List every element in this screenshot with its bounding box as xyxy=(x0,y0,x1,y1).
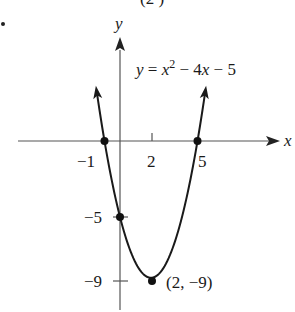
x-tick-label-5: 5 xyxy=(198,152,207,171)
vertex-label: (2, −9) xyxy=(166,273,212,292)
x-tick-label-neg1: −1 xyxy=(77,152,95,171)
parabola-graph: (2 ) x y −1 2 5 −5 −9 (2, −9) y = x2 − 4… xyxy=(0,0,295,312)
equation-label: y = x2 − 4x − 5 xyxy=(134,57,236,79)
bullet-dot xyxy=(1,22,5,26)
point-x-intercept-5 xyxy=(194,137,202,145)
y-tick-label-neg5: −5 xyxy=(84,208,102,227)
y-axis-arrow-icon xyxy=(115,37,125,51)
parabola-curve xyxy=(97,92,206,278)
point-y-intercept xyxy=(116,213,124,221)
x-tick-label-2: 2 xyxy=(147,152,156,171)
point-x-intercept-neg1 xyxy=(101,137,109,145)
y-tick-label-neg9: −9 xyxy=(84,272,102,291)
clipped-header-text: (2 ) xyxy=(140,0,164,8)
point-vertex xyxy=(148,277,156,285)
y-axis-label: y xyxy=(113,14,123,33)
x-axis-label: x xyxy=(283,131,292,150)
